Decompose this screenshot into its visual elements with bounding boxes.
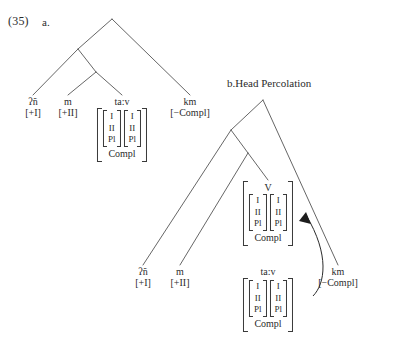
- leaf-a-4: km [−Compl]: [170, 96, 210, 119]
- example-part-a-label: a.: [42, 16, 50, 28]
- feature-column-2: I II Pl: [124, 110, 142, 147]
- leaf-feature: [+II]: [59, 107, 78, 119]
- feature-person1: I: [108, 111, 116, 123]
- leaf-feature: [+I]: [135, 277, 151, 289]
- leaf-form: ʔñ: [25, 96, 41, 107]
- leaf-form: m: [59, 96, 78, 107]
- leaf-a-3: ta:v: [115, 96, 130, 107]
- leaf-feature: [−Compl]: [318, 277, 358, 289]
- feature-matrix-b-head: V I II Pl I II Pl Compl: [243, 181, 293, 246]
- leaf-form: ʔñ: [135, 266, 151, 277]
- feature-person2: II: [254, 207, 262, 219]
- tree-branch-lines: [0, 0, 417, 351]
- feature-person1: I: [275, 281, 283, 293]
- feature-plural: Pl: [275, 218, 283, 230]
- feature-column-2: I II Pl: [270, 280, 288, 317]
- feature-plural: Pl: [254, 304, 262, 316]
- matrix-compl-label: Compl: [249, 317, 287, 331]
- leaf-a-1: ʔñ [+I]: [25, 96, 41, 119]
- feature-column-1: I II Pl: [249, 280, 267, 317]
- feature-person2: II: [108, 123, 116, 135]
- feature-person2: II: [129, 123, 137, 135]
- leaf-feature: [+II]: [171, 277, 190, 289]
- feature-person1: I: [254, 195, 262, 207]
- feature-plural: Pl: [275, 304, 283, 316]
- matrix-compl-label: Compl: [249, 231, 287, 245]
- example-number: (35): [8, 14, 29, 29]
- feature-column-1: I II Pl: [249, 194, 267, 231]
- leaf-b-1: ʔñ [+I]: [135, 266, 151, 289]
- example-part-b-label: b.Head Percolation: [227, 77, 311, 89]
- diagram-canvas: (35) a. b.Head Percolation ʔñ [+I] m [+I…: [0, 0, 417, 351]
- feature-column-1: I II Pl: [103, 110, 121, 147]
- feature-plural: Pl: [108, 134, 116, 146]
- feature-column-2: I II Pl: [270, 194, 288, 231]
- leaf-feature: [−Compl]: [170, 107, 210, 119]
- leaf-a-2: m [+II]: [59, 96, 78, 119]
- feature-plural: Pl: [254, 218, 262, 230]
- feature-person1: I: [254, 281, 262, 293]
- feature-person1: I: [275, 195, 283, 207]
- leaf-form: ta:v: [261, 266, 276, 277]
- leaf-form: km: [170, 96, 210, 107]
- matrix-compl-label: Compl: [103, 147, 141, 161]
- feature-person2: II: [275, 207, 283, 219]
- feature-person2: II: [275, 293, 283, 305]
- leaf-b-4: km [−Compl]: [318, 266, 358, 289]
- feature-person2: II: [254, 293, 262, 305]
- leaf-b-2: m [+II]: [171, 266, 190, 289]
- leaf-b-3: ta:v: [261, 266, 276, 277]
- leaf-form: km: [318, 266, 358, 277]
- leaf-form: ta:v: [115, 96, 130, 107]
- matrix-head-v-label: V: [249, 183, 287, 194]
- feature-person1: I: [129, 111, 137, 123]
- leaf-form: m: [171, 266, 190, 277]
- feature-matrix-a: I II Pl I II Pl Compl: [97, 108, 147, 162]
- feature-plural: Pl: [129, 134, 137, 146]
- feature-matrix-b-foot: I II Pl I II Pl Compl: [243, 278, 293, 332]
- leaf-feature: [+I]: [25, 107, 41, 119]
